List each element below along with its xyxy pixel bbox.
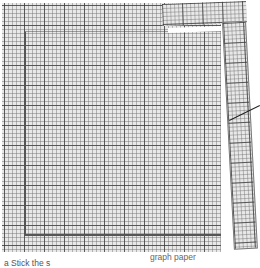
graph-paper-sheet bbox=[2, 3, 221, 252]
step-caption: a Stick the s bbox=[4, 258, 50, 268]
graph-paper-strip-right bbox=[222, 21, 258, 250]
graph-paper-label: graph paper bbox=[150, 252, 196, 262]
drawn-rectangle-outline bbox=[24, 31, 221, 236]
